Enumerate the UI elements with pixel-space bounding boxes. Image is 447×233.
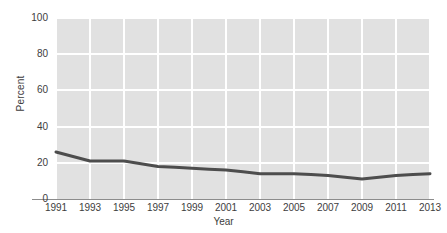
x-axis-title: Year [0,216,447,227]
series-layer [0,0,447,233]
line-chart: Percent 100806040200 1991199319951997199… [0,0,447,233]
series-line-percent [56,152,430,179]
